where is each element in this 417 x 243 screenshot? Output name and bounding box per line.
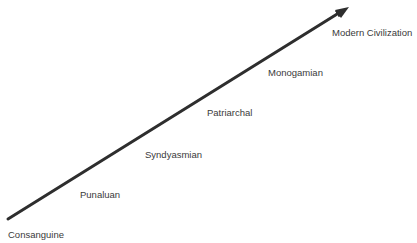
stage-label-consanguine: Consanguine (8, 230, 64, 240)
arrowhead-icon (335, 7, 349, 18)
progression-diagram: Consanguine Punaluan Syndyasmian Patriar… (0, 0, 417, 243)
stage-label-monogamian: Monogamian (268, 68, 323, 78)
stage-label-modern-civilization: Modern Civilization (332, 28, 412, 38)
stage-label-patriarchal: Patriarchal (207, 108, 252, 118)
arrow-line (8, 11, 342, 219)
stage-label-syndyasmian: Syndyasmian (145, 150, 202, 160)
stage-label-punaluan: Punaluan (80, 190, 120, 200)
